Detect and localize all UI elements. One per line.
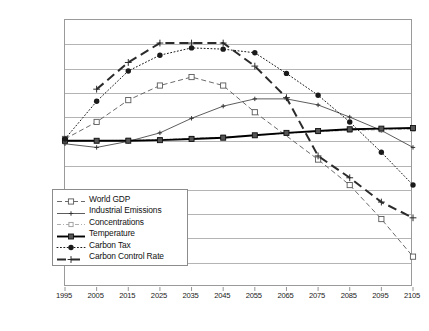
data-point-marker: [126, 68, 131, 73]
data-point-marker: [348, 115, 352, 119]
data-point-marker: [253, 97, 257, 101]
data-point-marker: [157, 52, 162, 57]
data-point-marker: [379, 150, 384, 155]
data-point-marker: [221, 83, 226, 88]
legend-key-icon: [56, 228, 86, 239]
legend-item-industrial-emissions[interactable]: Industrial Emissions: [56, 205, 183, 217]
data-point-marker: [252, 110, 257, 115]
line-chart: 10%8%6%4%2%0%-2%-4%-6%-8%-10%-12% 199520…: [0, 0, 429, 331]
legend-key-icon: [56, 205, 86, 216]
data-point-marker: [252, 50, 257, 55]
data-point-marker: [410, 182, 415, 187]
legend-label: Carbon Control Rate: [89, 252, 164, 260]
data-point-marker: [315, 93, 320, 98]
data-point-marker: [316, 103, 320, 107]
data-point-marker: [189, 74, 194, 79]
data-point-marker: [347, 182, 352, 187]
data-point-marker: [221, 135, 226, 140]
data-point-marker: [252, 133, 257, 138]
data-point-marker: [126, 138, 131, 143]
data-point-marker: [94, 99, 99, 104]
legend-key-icon: [56, 251, 86, 262]
data-point-marker: [158, 131, 162, 135]
series-line: [65, 48, 413, 185]
legend-item-concentrations[interactable]: Concentrations: [56, 216, 183, 228]
data-point-marker: [316, 129, 321, 134]
data-point-marker: [126, 98, 131, 103]
data-point-marker: [69, 223, 73, 227]
data-point-marker: [220, 46, 225, 51]
data-point-marker: [189, 136, 194, 141]
series-carbon-tax: [62, 45, 415, 188]
data-point-marker: [69, 211, 73, 215]
data-point-marker: [94, 138, 99, 143]
data-point-marker: [69, 234, 74, 239]
data-point-marker: [62, 136, 67, 141]
legend-label: Carbon Tax: [89, 241, 131, 249]
data-point-marker: [157, 83, 162, 88]
legend-label: Concentrations: [89, 218, 144, 226]
legend-item-carbon-control-rate[interactable]: Carbon Control Rate: [56, 251, 183, 263]
legend-item-world-gdp[interactable]: World GDP: [56, 193, 183, 205]
data-point-marker: [94, 119, 99, 124]
data-point-marker: [189, 116, 193, 120]
data-point-marker: [347, 127, 352, 132]
series-line: [65, 128, 413, 141]
legend-key-icon: [56, 216, 86, 227]
data-point-marker: [157, 138, 162, 143]
chart-legend: World GDPIndustrial EmissionsConcentrati…: [52, 189, 188, 266]
data-point-marker: [188, 40, 195, 47]
data-point-marker: [94, 145, 98, 149]
data-point-marker: [347, 119, 352, 124]
legend-key-icon: [56, 193, 86, 204]
data-point-marker: [379, 216, 384, 221]
data-point-marker: [68, 199, 73, 204]
data-point-marker: [379, 126, 384, 131]
legend-item-temperature[interactable]: Temperature: [56, 228, 183, 240]
data-point-marker: [221, 104, 225, 108]
x-axis-tick-labels: 1995200520152025203520452055206520752085…: [64, 292, 412, 306]
series-temperature: [63, 126, 416, 144]
series-line: [65, 129, 413, 141]
data-point-marker: [410, 254, 415, 259]
legend-key-icon: [56, 239, 86, 250]
legend-label: Temperature: [89, 229, 135, 237]
legend-item-carbon-tax[interactable]: Carbon Tax: [56, 239, 183, 251]
data-point-marker: [411, 126, 416, 131]
x-tick-label: 2105: [392, 292, 429, 300]
legend-label: World GDP: [89, 195, 130, 203]
data-point-marker: [68, 245, 73, 250]
legend-label: Industrial Emissions: [89, 206, 161, 214]
data-point-marker: [284, 71, 289, 76]
data-point-marker: [284, 130, 289, 135]
data-point-marker: [68, 256, 75, 263]
